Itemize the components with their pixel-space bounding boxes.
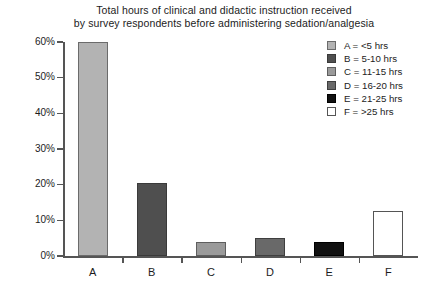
y-axis-tick-label-50pct: 50%: [7, 71, 55, 82]
legend-swatch-e: [327, 94, 336, 103]
y-axis-tick-label-0pct: 0%: [7, 250, 55, 261]
chart-legend: A = <5 hrsB = 5-10 hrsC = 11-15 hrsD = 1…: [327, 39, 445, 118]
legend-swatch-f: [327, 107, 336, 116]
x-axis-tick-mark: [300, 257, 301, 263]
x-axis-tick-label-f: F: [368, 266, 408, 278]
y-axis-tick-label-40pct: 40%: [7, 107, 55, 118]
bar-e: [314, 242, 344, 256]
bar-f: [373, 211, 403, 256]
bar-b: [137, 183, 167, 256]
bar-a: [78, 42, 108, 256]
chart-title-line-1: Total hours of clinical and didactic ins…: [0, 4, 448, 17]
x-axis-tick-mark: [241, 257, 242, 263]
chart-title: Total hours of clinical and didactic ins…: [0, 4, 448, 30]
legend-item-e: E = 21-25 hrs: [327, 92, 445, 105]
x-axis-tick-label-a: A: [73, 266, 113, 278]
bar-c: [196, 242, 226, 256]
legend-item-f: F = >25 hrs: [327, 105, 445, 118]
legend-item-b: B = 5-10 hrs: [327, 52, 445, 65]
legend-swatch-a: [327, 41, 336, 50]
legend-label-e: E = 21-25 hrs: [344, 93, 402, 104]
legend-label-f: F = >25 hrs: [344, 106, 394, 117]
legend-swatch-c: [327, 67, 336, 76]
x-axis-tick-label-e: E: [309, 266, 349, 278]
legend-swatch-b: [327, 54, 336, 63]
bar-d: [255, 238, 285, 256]
x-axis-tick-label-c: C: [191, 266, 231, 278]
y-axis-tick-labels: 0%10%20%30%40%50%60%: [0, 0, 55, 287]
x-axis-tick-mark: [359, 257, 360, 263]
y-axis-tick-label-30pct: 30%: [7, 143, 55, 154]
y-axis-tick-label-20pct: 20%: [7, 178, 55, 189]
legend-item-a: A = <5 hrs: [327, 39, 445, 52]
x-axis-tick-mark: [181, 257, 182, 263]
y-axis-tick-label-10pct: 10%: [7, 214, 55, 225]
legend-swatch-d: [327, 81, 336, 90]
x-axis-tick-mark: [122, 257, 123, 263]
y-axis-tick-label-60pct: 60%: [7, 36, 55, 47]
legend-label-a: A = <5 hrs: [344, 40, 388, 51]
chart-title-line-2: by survey respondents before administeri…: [0, 17, 448, 30]
legend-item-d: D = 16-20 hrs: [327, 79, 445, 92]
legend-label-d: D = 16-20 hrs: [344, 80, 403, 91]
legend-label-c: C = 11-15 hrs: [344, 66, 402, 77]
legend-item-c: C = 11-15 hrs: [327, 65, 445, 78]
legend-label-b: B = 5-10 hrs: [344, 53, 397, 64]
x-axis-tick-label-b: B: [132, 266, 172, 278]
x-axis-tick-label-d: D: [250, 266, 290, 278]
